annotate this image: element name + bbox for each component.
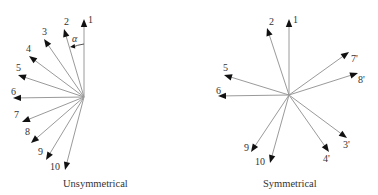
vector-line xyxy=(67,97,84,164)
arrowhead-icon xyxy=(29,56,37,63)
angle-alpha-annotation: α xyxy=(70,33,84,48)
vector-label: 9 xyxy=(38,146,43,157)
vector-line xyxy=(272,95,289,157)
symmetrical-diagram: 12567'8'3'4'910 xyxy=(216,14,365,167)
vector-1: 1 xyxy=(81,14,93,97)
vector-5: 5 xyxy=(16,62,84,97)
vector-label: 2 xyxy=(269,16,274,27)
vector-label: 8 xyxy=(25,126,30,137)
arrowhead-icon xyxy=(286,19,292,27)
vector-label: 5 xyxy=(223,62,228,73)
arrowhead-icon xyxy=(269,154,275,163)
vector-label: 1 xyxy=(293,14,298,25)
vector-2: 2 xyxy=(63,16,84,97)
arrowhead-icon xyxy=(18,74,27,80)
arrowhead-icon xyxy=(266,28,272,37)
vector-label: 3 xyxy=(42,26,47,37)
vector-label: 9 xyxy=(244,142,249,153)
arrowhead-icon xyxy=(81,19,87,27)
arrowhead-icon xyxy=(46,151,53,160)
vector-label: 10 xyxy=(255,156,265,167)
arrowhead-icon xyxy=(22,116,31,122)
arrowhead-icon xyxy=(224,74,233,80)
vector-label: 6 xyxy=(216,85,221,96)
angle-arrowhead-icon xyxy=(70,44,75,48)
vector-label: 4' xyxy=(323,153,330,164)
vector-line xyxy=(49,97,84,155)
vector-line xyxy=(36,97,84,139)
vector-line xyxy=(254,95,289,147)
arrowhead-icon xyxy=(64,161,70,170)
vector-5: 5 xyxy=(223,62,289,95)
vector-line xyxy=(28,97,84,120)
vector-line xyxy=(289,95,342,134)
vector-label: 10 xyxy=(50,161,60,172)
diagram-canvas: 12345678910α 12567'8'3'4'910 Unsymmetric… xyxy=(0,0,378,195)
vector-2: 2 xyxy=(266,16,289,95)
arrowhead-icon xyxy=(44,39,51,47)
arrowhead-icon xyxy=(349,72,358,78)
symmetrical-caption: Symmetrical xyxy=(263,178,317,189)
vector-label: 6 xyxy=(11,86,16,97)
vector-7prime: 7' xyxy=(289,52,358,95)
vector-3prime: 3' xyxy=(289,95,350,150)
vector-line xyxy=(269,34,289,95)
arrowhead-icon xyxy=(341,52,349,59)
vector-7: 7 xyxy=(14,97,84,122)
vector-line xyxy=(19,97,84,98)
arrowhead-icon xyxy=(251,144,258,152)
vector-4: 4 xyxy=(26,43,84,97)
vector-10: 10 xyxy=(255,95,289,167)
vector-line xyxy=(224,95,289,96)
vector-diagram-figure: 12345678910α 12567'8'3'4'910 Unsymmetric… xyxy=(0,0,378,195)
vector-label: 2 xyxy=(64,16,69,27)
unsymmetrical-diagram: 12345678910α xyxy=(11,14,93,172)
vector-line xyxy=(289,95,326,147)
unsymmetrical-caption: Unsymmetrical xyxy=(63,178,128,189)
vector-1: 1 xyxy=(286,14,298,95)
vector-label: 7 xyxy=(14,109,19,120)
vector-line xyxy=(289,55,344,95)
vector-line xyxy=(24,77,84,97)
vector-label: 8' xyxy=(358,74,365,85)
arrowhead-icon xyxy=(322,144,329,152)
vector-line xyxy=(47,44,84,97)
vector-8: 8 xyxy=(25,97,84,143)
vector-line xyxy=(230,77,289,95)
arrowhead-icon xyxy=(63,29,69,38)
vector-label: 3' xyxy=(343,139,350,150)
vector-line xyxy=(34,60,84,97)
vector-label: 4 xyxy=(26,43,31,54)
vector-3: 3 xyxy=(42,26,84,97)
alpha-label: α xyxy=(72,33,78,44)
vector-label: 7' xyxy=(351,53,358,64)
vector-4prime: 4' xyxy=(289,95,330,164)
vector-line xyxy=(289,75,352,95)
vector-9: 9 xyxy=(244,95,289,153)
arrowhead-icon xyxy=(339,131,347,138)
vector-8prime: 8' xyxy=(289,72,365,95)
vector-label: 1 xyxy=(88,14,93,25)
vector-label: 5 xyxy=(16,62,21,73)
